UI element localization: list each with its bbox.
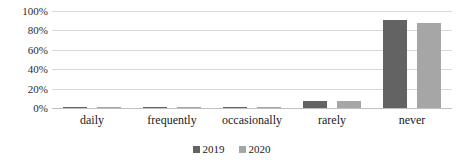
bar-group	[223, 11, 281, 108]
bar-chart: 0%20%40%60%80%100% dailyfrequentlyoccasi…	[0, 0, 463, 163]
x-axis-tick-label: rarely	[318, 111, 346, 129]
y-axis-tick-label: 100%	[0, 6, 48, 17]
bar-2019-rarely	[303, 101, 327, 108]
legend-item[interactable]: 2020	[239, 144, 271, 155]
bar-2020-never	[417, 23, 441, 108]
x-axis-labels: dailyfrequentlyoccasionallyrarelynever	[52, 111, 452, 131]
legend-label: 2019	[203, 144, 225, 155]
legend-label: 2020	[249, 144, 271, 155]
legend-swatch-icon	[239, 146, 246, 153]
x-axis-tick-label: occasionally	[222, 111, 282, 129]
bar-2019-never	[383, 20, 407, 108]
axis-baseline	[52, 108, 452, 109]
bar-2019-frequently	[143, 107, 167, 108]
plot-area	[52, 11, 452, 108]
bar-group	[63, 11, 121, 108]
y-axis-tick-label: 60%	[0, 44, 48, 55]
bar-2020-daily	[97, 107, 121, 108]
y-axis-tick-label: 40%	[0, 64, 48, 75]
bar-2019-daily	[63, 107, 87, 108]
legend-item[interactable]: 2019	[193, 144, 225, 155]
x-axis-tick-label: daily	[80, 111, 104, 129]
y-axis-labels: 0%20%40%60%80%100%	[0, 0, 48, 119]
y-axis-tick-label: 80%	[0, 25, 48, 36]
y-axis-tick-label: 0%	[0, 103, 48, 114]
chart-legend: 20192020	[0, 139, 463, 159]
bar-group	[383, 11, 441, 108]
x-axis-tick-label: frequently	[147, 111, 196, 129]
bar-group	[303, 11, 361, 108]
bar-2020-occasionally	[257, 107, 281, 108]
bar-2020-rarely	[337, 101, 361, 108]
y-axis-tick-label: 20%	[0, 83, 48, 94]
legend-swatch-icon	[193, 146, 200, 153]
bar-2019-occasionally	[223, 107, 247, 108]
bar-2020-frequently	[177, 107, 201, 108]
bar-group	[143, 11, 201, 108]
x-axis-tick-label: never	[399, 111, 426, 129]
